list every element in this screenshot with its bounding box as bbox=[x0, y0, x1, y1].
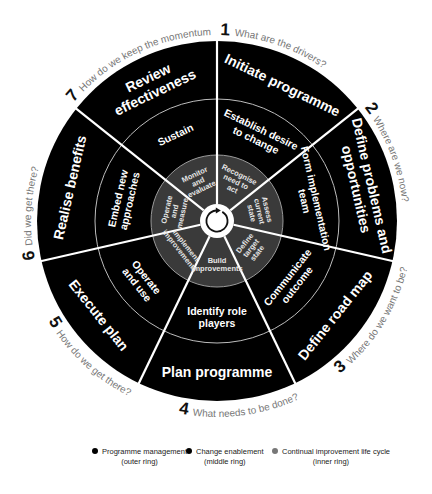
segment-number: 1 bbox=[220, 20, 236, 40]
segment-number: 6 bbox=[18, 245, 39, 262]
legend-sub: (outer ring) bbox=[92, 457, 187, 467]
outer-segment-label: Plan programme bbox=[162, 364, 273, 380]
legend-sub: (inner ring) bbox=[272, 457, 390, 467]
legend-dot-icon bbox=[272, 448, 278, 454]
svg-text:Plan programme: Plan programme bbox=[162, 364, 273, 380]
segment-number: 4 bbox=[178, 398, 195, 419]
legend-label: Programme management bbox=[102, 447, 187, 456]
legend-dot-icon bbox=[186, 448, 192, 454]
legend-item-middle-ring: Change enablement (middle ring) bbox=[186, 447, 264, 467]
legend: Programme management (outer ring) Change… bbox=[0, 447, 432, 477]
svg-text:players: players bbox=[199, 317, 236, 329]
programme-wheel-diagram: Initiate programmeEstablish desireto cha… bbox=[0, 0, 432, 440]
legend-label: Change enablement bbox=[196, 447, 264, 456]
legend-item-outer-ring: Programme management (outer ring) bbox=[92, 447, 187, 467]
svg-text:Identify role: Identify role bbox=[187, 305, 247, 317]
hub bbox=[200, 204, 234, 238]
legend-sub: (middle ring) bbox=[186, 457, 264, 467]
legend-item-inner-ring: Continual improvement life cycle (inner … bbox=[272, 447, 390, 467]
svg-text:improvements: improvements bbox=[191, 264, 242, 273]
legend-dot-icon bbox=[92, 448, 98, 454]
legend-label: Continual improvement life cycle bbox=[282, 447, 390, 456]
